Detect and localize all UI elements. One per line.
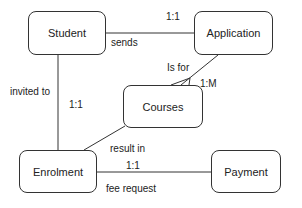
crows-foot-prong-right — [189, 78, 190, 85]
entity-payment[interactable]: Payment — [211, 150, 281, 193]
crows-foot-prong-left — [171, 78, 190, 85]
entity-courses-label: Courses — [143, 101, 184, 113]
relationship-label-is-for: Is for — [167, 62, 189, 74]
cardinality-label-student-application: 1:1 — [166, 11, 180, 23]
relationship-label-invited-to: invited to — [10, 86, 50, 98]
relationship-label-result-in: result in — [110, 143, 145, 155]
entity-enrolment-label: Enrolment — [33, 166, 83, 178]
entity-courses[interactable]: Courses — [123, 85, 203, 128]
relationship-label-fee-request: fee request — [106, 183, 156, 195]
entity-student-label: Student — [48, 27, 86, 39]
entity-enrolment[interactable]: Enrolment — [19, 150, 97, 193]
entity-payment-label: Payment — [224, 166, 267, 178]
entity-application-label: Application — [207, 27, 261, 39]
relationship-label-sends: sends — [111, 37, 138, 49]
entity-application[interactable]: Application — [194, 11, 273, 55]
cardinality-label-enrolment-payment: 1:1 — [126, 160, 140, 172]
cardinality-label-application-courses: 1:M — [200, 78, 217, 90]
entity-student[interactable]: Student — [28, 11, 106, 55]
cardinality-label-student-enrolment: 1:1 — [69, 99, 83, 111]
